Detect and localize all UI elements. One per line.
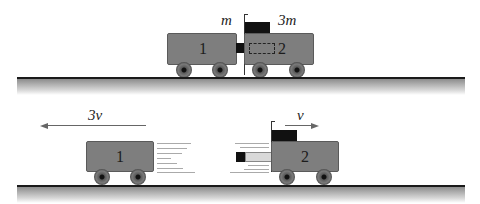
- spring-block-bottom: [272, 130, 297, 141]
- speed-line: [240, 147, 269, 148]
- cart-1-bottom: 1: [86, 141, 154, 172]
- cart-number: 1: [199, 40, 207, 58]
- arrow-left-icon: [40, 123, 48, 129]
- speed-line: [230, 172, 269, 173]
- plunger-tip: [236, 152, 245, 162]
- speed-line: [157, 148, 187, 149]
- cart-1-top: 1: [167, 33, 237, 65]
- released-spring-plunger: [245, 152, 272, 162]
- wheel-icon: [176, 62, 192, 78]
- speed-line: [244, 169, 269, 170]
- cart-2-top: 2: [244, 33, 314, 65]
- wheel-icon: [279, 169, 295, 185]
- speed-line: [157, 143, 191, 144]
- cart-number: 1: [116, 148, 124, 166]
- mass-label-cart1: m: [221, 12, 232, 29]
- speed-line: [248, 165, 269, 166]
- velocity-label-cart1: 3v: [88, 107, 102, 124]
- mass-label-cart2: 3m: [278, 12, 296, 29]
- wheel-icon: [252, 62, 268, 78]
- speed-line: [157, 163, 177, 164]
- ground-bottom: [17, 185, 465, 203]
- velocity-arrow-cart1: [46, 125, 146, 126]
- speed-line: [235, 143, 269, 144]
- arrow-right-icon: [311, 123, 319, 129]
- cart-number: 2: [278, 40, 286, 58]
- speed-line: [157, 158, 171, 159]
- wheel-icon: [130, 169, 146, 185]
- velocity-arrow-cart2: [285, 125, 313, 126]
- wheel-icon: [316, 169, 332, 185]
- ground-top: [17, 77, 465, 95]
- compressed-spring-outline: [249, 43, 275, 54]
- wheel-icon: [212, 62, 228, 78]
- cart-number: 2: [301, 148, 309, 166]
- wheel-icon: [94, 169, 110, 185]
- spring-block-top: [245, 22, 270, 33]
- velocity-label-cart2: v: [297, 107, 304, 124]
- speed-line: [157, 168, 183, 169]
- cart-2-bottom: 2: [271, 141, 339, 172]
- wheel-icon: [289, 62, 305, 78]
- speed-line: [157, 172, 195, 173]
- speed-line: [157, 153, 182, 154]
